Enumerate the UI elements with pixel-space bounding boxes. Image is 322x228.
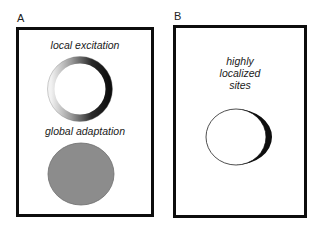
caption-line-1: highly (173, 55, 307, 67)
panel-a-label: A (17, 12, 24, 24)
local-excitation-ring (46, 55, 116, 125)
localized-sites-circle (203, 106, 275, 168)
caption-line-3: sites (173, 79, 307, 91)
global-adaptation-caption: global adaptation (16, 125, 154, 137)
local-excitation-caption: local excitation (16, 39, 154, 51)
highly-localized-sites-caption: highly localized sites (173, 55, 307, 91)
caption-line-2: localized (173, 67, 307, 79)
panel-b-label: B (174, 10, 181, 22)
global-adaptation-disk (47, 142, 117, 208)
